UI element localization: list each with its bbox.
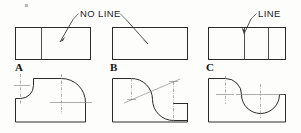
arrow-to-rect-b bbox=[126, 20, 148, 45]
front-view-b bbox=[113, 79, 188, 122]
leader-hook-right bbox=[120, 14, 126, 20]
front-view-a-outline bbox=[16, 79, 86, 122]
arrow-a-shaft bbox=[60, 20, 73, 43]
arrow-b-head bbox=[143, 39, 149, 44]
leader-hook-c bbox=[251, 14, 257, 20]
top-view-b-outline bbox=[113, 28, 188, 60]
callout-no-line: NO LINE bbox=[73, 8, 126, 20]
arrow-to-rect-a bbox=[60, 20, 73, 43]
scan-speck bbox=[25, 4, 28, 7]
figure-root: NO LINE LINE A bbox=[0, 0, 301, 133]
top-view-c-outline bbox=[209, 28, 286, 60]
arrow-c-shaft bbox=[244, 19, 251, 34]
front-view-a bbox=[14, 74, 92, 122]
top-view-b bbox=[113, 28, 188, 60]
case-label-c: C bbox=[206, 61, 214, 73]
callout-no-line-label: NO LINE bbox=[80, 8, 121, 19]
front-view-c-outline bbox=[209, 79, 286, 122]
front-view-c bbox=[209, 76, 286, 122]
case-label-a: A bbox=[15, 61, 23, 73]
callout-line-label: LINE bbox=[258, 8, 281, 19]
callout-line: LINE bbox=[242, 8, 281, 34]
case-label-b: B bbox=[110, 61, 118, 73]
leader-hook-left bbox=[73, 14, 79, 20]
arrow-b-shaft bbox=[126, 20, 148, 45]
technical-drawing-canvas: NO LINE LINE A bbox=[0, 0, 301, 133]
top-view-c bbox=[209, 28, 286, 60]
top-view-a bbox=[16, 28, 91, 60]
front-view-b-outline bbox=[113, 79, 188, 122]
top-view-a-outline bbox=[16, 28, 91, 60]
